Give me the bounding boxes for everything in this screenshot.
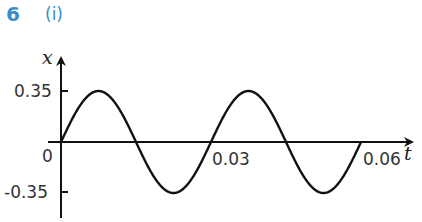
sine-chart: x t 0.35 -0.35 0 0.03 0.06 [0, 0, 422, 222]
origin-label: 0 [42, 146, 53, 166]
x-tick-label-006: 0.06 [363, 149, 401, 169]
x-tick-label-003: 0.03 [212, 149, 250, 169]
y-axis-label: x [42, 46, 53, 68]
x-axis-label: t [404, 142, 412, 164]
y-tick-label-pos: 0.35 [14, 81, 52, 101]
y-tick-label-neg: -0.35 [4, 182, 48, 202]
